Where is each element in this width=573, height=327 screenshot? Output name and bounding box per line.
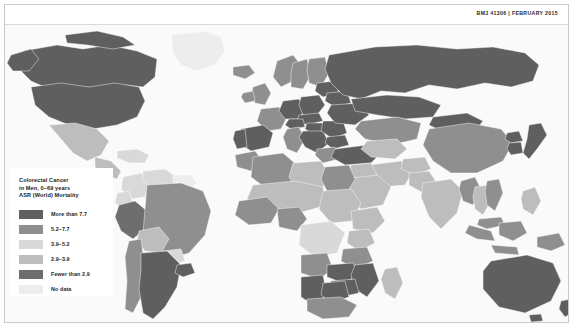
legend-item: More than 7.7 — [19, 207, 105, 222]
region-madagascar — [381, 267, 403, 299]
region-philippines — [521, 187, 541, 215]
region-bulgaria — [325, 135, 349, 149]
region-australia — [483, 255, 561, 313]
region-argentina — [139, 251, 181, 319]
region-portugal — [233, 129, 247, 149]
legend-item: 3.9–5.2 — [19, 237, 105, 252]
region-south-korea — [507, 142, 523, 155]
region-canada-arctic — [65, 31, 135, 49]
legend-swatch — [19, 210, 43, 220]
legend-item: Fewer than 2.9 — [19, 267, 105, 282]
region-iceland — [233, 65, 255, 79]
legend-item: 2.9–3.9 — [19, 252, 105, 267]
region-mexico — [49, 123, 109, 161]
region-united-states — [31, 83, 145, 129]
legend-item: No data — [19, 282, 105, 297]
region-indonesia-java — [491, 245, 519, 255]
source-citation: BMJ 41306 | FEBRUARY 2015 — [477, 10, 558, 16]
legend-swatch — [19, 285, 43, 295]
map-page: BMJ 41306 | FEBRUARY 2015 .c1 { fill: #5… — [0, 0, 573, 327]
legend-label: 5.2–7.7 — [51, 226, 70, 232]
legend-item: 5.2–7.7 — [19, 222, 105, 237]
legend-title: Colorectal Cancer in Men, 0–69 years ASR… — [19, 177, 105, 200]
region-south-africa — [307, 297, 357, 319]
legend-swatch — [19, 255, 43, 265]
legend-label: More than 7.7 — [51, 211, 87, 217]
legend-swatch — [19, 225, 43, 235]
region-poland — [299, 95, 325, 115]
legend-swatch — [19, 240, 43, 250]
legend-swatch — [19, 270, 43, 280]
region-united-kingdom — [251, 83, 271, 105]
region-new-zealand — [559, 299, 568, 317]
legend-label: 2.9–3.9 — [51, 256, 70, 262]
region-caribbean — [117, 149, 149, 163]
legend-label: 3.9–5.2 — [51, 241, 70, 247]
map-legend: Colorectal Cancer in Men, 0–69 years ASR… — [10, 168, 113, 296]
region-dr-congo — [299, 221, 345, 257]
region-india — [421, 179, 463, 229]
region-japan — [523, 123, 547, 159]
legend-label: No data — [51, 286, 71, 292]
region-tasmania — [529, 314, 543, 322]
legend-label: Fewer than 2.9 — [51, 271, 90, 277]
region-indonesia-borneo — [499, 221, 527, 241]
region-papua-new-guinea — [537, 233, 565, 251]
region-ireland — [241, 91, 255, 103]
region-china — [423, 123, 513, 173]
region-greenland — [171, 31, 225, 71]
region-russia — [325, 45, 539, 99]
header-bar: BMJ 41306 | FEBRUARY 2015 — [5, 5, 568, 25]
